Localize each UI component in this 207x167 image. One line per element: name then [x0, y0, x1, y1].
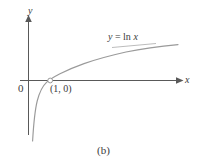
- x-axis-label: x: [185, 75, 189, 85]
- figure-panel: y x 0 (1, 0) y = ln x (b): [0, 0, 207, 167]
- figure-caption: (b): [0, 144, 207, 156]
- equation-argument: x: [133, 31, 137, 42]
- curve-equation-label: y = ln x: [108, 32, 138, 42]
- x-axis-arrowhead: [176, 77, 184, 84]
- y-axis-arrowhead: [25, 15, 32, 22]
- plot-canvas: [0, 0, 207, 167]
- point-label-1-0: (1, 0): [50, 84, 72, 94]
- origin-label: 0: [18, 83, 24, 94]
- equation-function: ln: [123, 31, 131, 42]
- y-axis-label: y: [28, 6, 32, 16]
- curve-label-leader-line: [112, 44, 156, 48]
